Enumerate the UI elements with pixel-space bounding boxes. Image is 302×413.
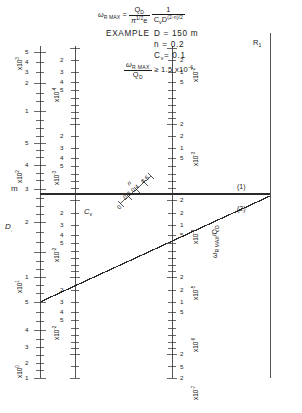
example-label: EXAMPLE	[106, 29, 150, 38]
axis-cv-tick-label: 5	[60, 317, 63, 323]
axis-omega-decade-label: x10-2	[192, 68, 199, 82]
axis-d-tick-label: 5	[25, 49, 28, 55]
axis-omega-decade-label: x10-4	[192, 230, 199, 244]
example-diameter: D = 150 m	[154, 29, 198, 38]
axis-omega-tick-label: 1	[180, 145, 183, 151]
axis-omega-tick-label: 2	[180, 57, 183, 63]
axis-cv-decade-label: x10-2	[53, 326, 60, 340]
axis-omega-tick-label: 2	[180, 287, 183, 293]
axis-d-tick-label: 2	[25, 360, 28, 366]
axis-cv-tick-label: 5	[60, 87, 63, 93]
axis-d-tick-label: 2	[25, 219, 28, 225]
axis-omega-tick-label: 2	[180, 133, 183, 139]
axis-cv-tick-label: 2	[60, 287, 63, 293]
axis-omega-decade-label: x10-6	[192, 338, 199, 352]
axis-cv-tick-label: 3	[60, 145, 63, 151]
axis-cv-tick-label: 3	[60, 299, 63, 305]
axis-d-tick-label: 3	[25, 69, 28, 75]
axis-cv-tick-label: 2	[60, 133, 63, 139]
axis-d-title: D,	[5, 222, 12, 232]
axis-cv-tick-label: 3	[60, 69, 63, 75]
axis-cv-tick-label: 4	[60, 309, 63, 315]
axis-cv-decade-label: x10-3	[53, 171, 60, 185]
axis-omega-tick-label: 2	[180, 210, 183, 216]
formula-fraction-1: QD π1/2e	[129, 6, 150, 25]
fraction-1-denominator: π1/2e	[129, 15, 150, 25]
axis-d-tick-label: 4	[25, 162, 28, 168]
axis-omega-tick-label: 1	[180, 299, 183, 305]
axis-cv-decade-label: x10-4	[53, 88, 60, 102]
example-n-value: n = 0.2	[154, 40, 184, 49]
fraction-2-numerator: 1	[152, 6, 185, 14]
axis-cv-tick-label: 5	[60, 240, 63, 246]
axis-omega-tick-label: 5	[180, 364, 183, 370]
fraction-1-numerator: QD	[129, 6, 150, 15]
axis-omega-tick-label: 2	[180, 351, 183, 357]
axis-omega-tick-label: 1	[180, 222, 183, 228]
ratio-numerator: ωR MAX	[124, 61, 152, 70]
formula-equals: =	[122, 10, 126, 19]
axis-d-unit-label: m	[11, 184, 18, 193]
axis-d-tick-label: 3	[25, 186, 28, 192]
formula-fraction-2: 1 CvD(2-n)/2	[152, 6, 185, 25]
axis-d-tick-label: 3	[25, 344, 28, 350]
axis-omega-tick-label: 2	[180, 274, 183, 280]
axis-cv-tick-label: 4	[60, 79, 63, 85]
ratio-operator: ≥	[154, 65, 158, 74]
axis-omega-tick-label: 2	[180, 197, 183, 203]
formula-lhs-subscript: R MAX	[104, 14, 121, 20]
nomograph-figure: ωR MAX = QD π1/2e 1 CvD(2-n)/2 EXAMPLE D…	[0, 0, 302, 413]
axis-cv-tick-label: 4	[60, 232, 63, 238]
axis-omega-decade-label: x10-7	[192, 386, 199, 400]
main-formula: ωR MAX = QD π1/2e 1 CvD(2-n)/2	[98, 6, 228, 25]
axis-cv-tick-label: 4	[60, 155, 63, 161]
axis-cv-title: Cv	[84, 207, 92, 217]
axis-d-tick-label: 4	[25, 59, 28, 65]
axis-d-decade-label: x101	[16, 280, 23, 293]
axis-r1-title: R1	[253, 38, 261, 48]
axis-omega-tick-label: 5	[180, 309, 183, 315]
ratio-value: 1.5 x10	[161, 65, 188, 74]
construction-line-2-tag: (2)	[237, 205, 246, 212]
fraction-2-denominator: CvD(2-n)/2	[152, 14, 185, 25]
axis-omega-tick-label: 5	[180, 155, 183, 161]
ratio-fraction: ωR MAX QD	[124, 61, 152, 80]
axis-d-tick-label: 1	[25, 274, 28, 280]
axis-cv-decade-label: x10-2	[53, 248, 60, 262]
axis-d-tick-label: 4	[25, 327, 28, 333]
axis-omega-tick-label: 5	[180, 232, 183, 238]
axis-omega-title: ωR MAX/QD	[211, 225, 220, 258]
axis-d-tick-label: 2	[25, 80, 28, 86]
axis-omega-tick-label: 2	[180, 375, 183, 381]
axis-cv-tick-label: 2	[60, 57, 63, 63]
axis-d-tick-label: 5	[25, 299, 28, 305]
axis-omega-tick-label: 2	[180, 121, 183, 127]
axis-d-tick-label: 5	[25, 140, 28, 146]
axis-cv-tick-label: 5	[60, 163, 63, 169]
construction-line-2	[40, 196, 270, 302]
axis-omega-decade-label: x10-5	[192, 286, 199, 300]
axis-d-decade-label: x103	[16, 57, 23, 70]
axis-omega-tick-label: 5	[180, 79, 183, 85]
formula-header: ωR MAX = QD π1/2e 1 CvD(2-n)/2 EXAMPLE D…	[98, 6, 228, 25]
axis-omega-tick-label: 1	[180, 69, 183, 75]
axis-cv-tick-label: 2	[60, 210, 63, 216]
axis-omega-decade-label: x10-3	[192, 152, 199, 166]
axis-d-tick-label: 1	[25, 108, 28, 114]
axis-d-tick-label: 1	[25, 375, 28, 381]
construction-line-1-tag: (1)	[237, 183, 246, 190]
axis-cv-tick-label: 3	[60, 222, 63, 228]
ratio-denominator: QD	[124, 70, 152, 80]
axis-d-decade-label: x102	[16, 170, 23, 183]
axis-d-decade-label: x100	[16, 365, 23, 378]
